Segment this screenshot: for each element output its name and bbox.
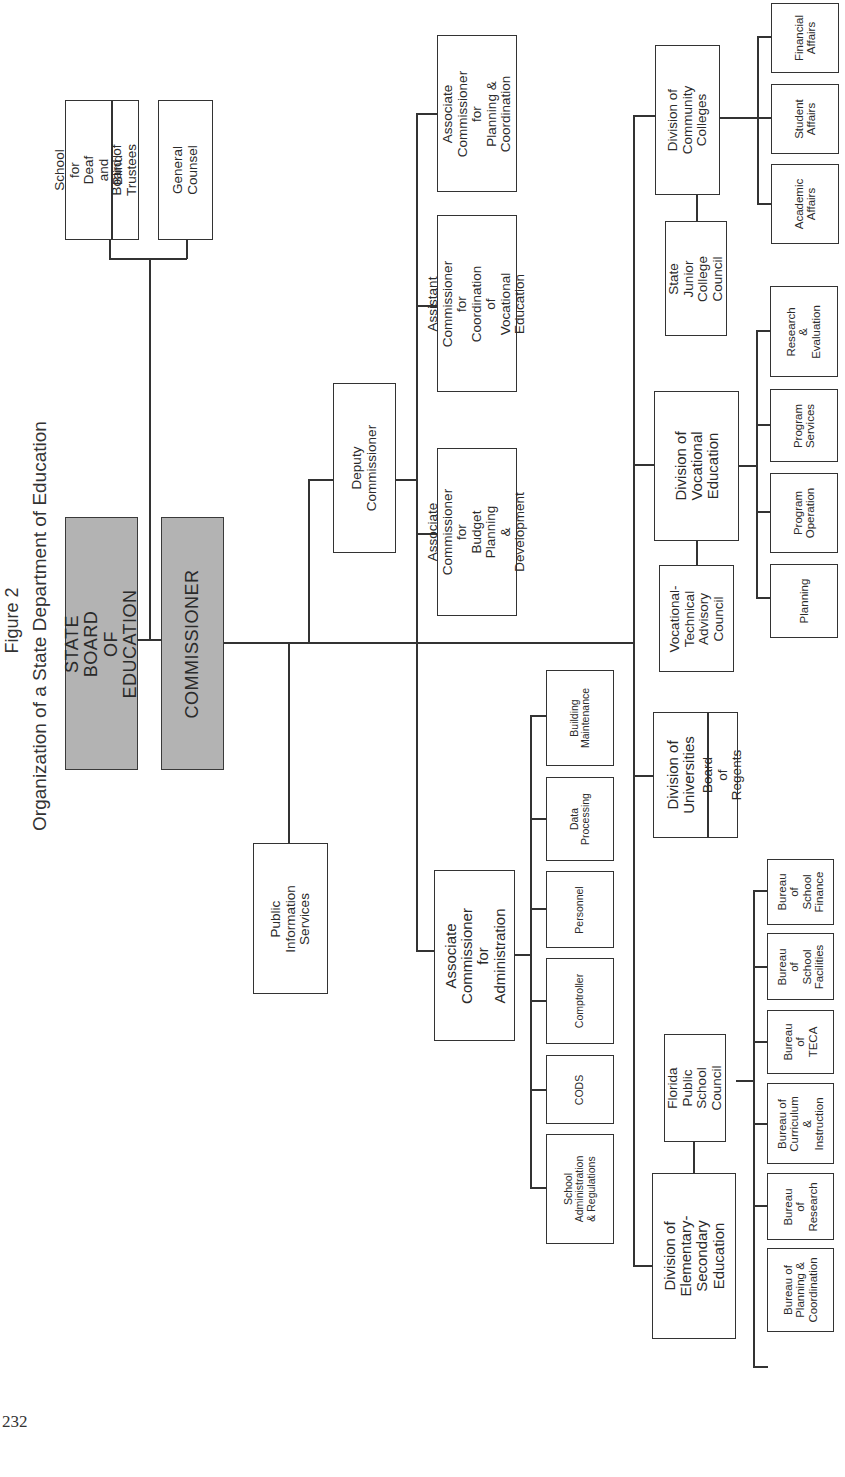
connector xyxy=(753,890,768,892)
voc-unit-label: Planning xyxy=(798,579,810,624)
admin-unit-box: Comptroller xyxy=(546,958,614,1044)
state-board-label: STATE BOARD OF EDUCATION xyxy=(63,589,141,698)
administration-label: Associate Commissioner for Administratio… xyxy=(442,908,507,1004)
figure-title: Organization of a State Department of Ed… xyxy=(29,406,51,846)
public-information-box: Public Information Services xyxy=(253,843,328,994)
state-board-box: STATE BOARD OF EDUCATION xyxy=(65,517,138,770)
connector xyxy=(416,113,418,951)
connector xyxy=(633,1265,653,1267)
bureau-label: Bureau of School Finance xyxy=(776,872,826,913)
cc-unit-label: Academic Affairs xyxy=(793,179,818,230)
admin-unit-label: School Administration & Regulations xyxy=(563,1156,597,1223)
connector xyxy=(633,115,635,1266)
admin-unit-label: Data Processing xyxy=(569,793,592,845)
connector xyxy=(736,1080,754,1082)
connector xyxy=(756,511,771,513)
vocational-division-label: Division of Vocational Education xyxy=(672,431,721,500)
voc-unit-box: Program Services xyxy=(770,389,838,462)
connector xyxy=(530,715,546,717)
cc-unit-box: Academic Affairs xyxy=(771,164,839,244)
connector xyxy=(224,642,634,644)
vocational-division-box: Division of Vocational Education xyxy=(654,391,739,541)
connector xyxy=(753,1205,768,1207)
admin-unit-label: Comptroller xyxy=(574,974,585,1028)
connector xyxy=(753,1041,768,1043)
budget-planning-label: Associate Commissioner for Budget Planni… xyxy=(426,489,528,575)
bureau-label: Bureau of Research xyxy=(782,1182,819,1231)
connector xyxy=(514,954,531,956)
connector xyxy=(530,1000,546,1002)
figure-label: Figure 2 xyxy=(2,581,23,661)
elementary-secondary-label: Division of Elementary- Secondary Educat… xyxy=(662,1216,727,1297)
deputy-commissioner-label: Deputy Commissioner xyxy=(350,425,379,511)
connector xyxy=(186,240,188,259)
universities-label: Division of Universities xyxy=(664,736,696,814)
connector xyxy=(696,194,698,222)
connector xyxy=(757,203,772,205)
deputy-commissioner-box: Deputy Commissioner xyxy=(333,383,396,553)
voc-unit-label: Program Services xyxy=(792,403,817,447)
vocational-coordination-box: Assistant Commissioner for Coordination … xyxy=(437,215,517,392)
board-of-trustees-label: Board of Trustees xyxy=(110,144,139,196)
junior-college-council-box: State Junior College Council xyxy=(665,221,727,336)
voc-unit-label: Research & Evaluation xyxy=(785,305,822,359)
connector xyxy=(739,465,757,467)
voc-unit-box: Research & Evaluation xyxy=(770,286,838,377)
connector xyxy=(756,330,771,332)
bureau-box: Bureau of School Facilities xyxy=(767,933,834,1000)
connector xyxy=(530,818,546,820)
admin-unit-box: School Administration & Regulations xyxy=(546,1134,614,1244)
admin-unit-label: CODS xyxy=(574,1074,585,1104)
bureau-label: Bureau of School Facilities xyxy=(776,944,826,989)
connector xyxy=(693,1141,695,1174)
general-counsel-label: General Counsel xyxy=(171,145,200,195)
bureau-box: Bureau of School Finance xyxy=(767,859,834,925)
connector xyxy=(757,36,759,204)
admin-unit-label: Building Maintenance xyxy=(569,688,592,748)
connector xyxy=(756,424,771,426)
admin-unit-box: Data Processing xyxy=(546,777,614,861)
cc-unit-box: Financial Affairs xyxy=(771,3,839,73)
connector xyxy=(720,117,738,119)
connector xyxy=(753,1123,768,1125)
connector xyxy=(753,1366,768,1368)
voc-tech-council-label: Vocational- Technical Advisory Council xyxy=(667,585,725,652)
connector xyxy=(416,950,434,952)
community-colleges-label: Division of Community Colleges xyxy=(666,86,710,154)
bureau-box: Bureau of Curriculum & Instruction xyxy=(767,1083,834,1164)
connector xyxy=(308,479,310,643)
admin-unit-box: Personnel xyxy=(546,871,614,948)
admin-unit-box: CODS xyxy=(546,1055,614,1124)
admin-unit-box: Building Maintenance xyxy=(546,670,614,766)
connector xyxy=(753,890,755,1366)
connector xyxy=(633,115,656,117)
connector xyxy=(109,240,111,259)
connector xyxy=(530,1089,546,1091)
commissioner-label: COMMISSIONER xyxy=(183,569,202,718)
connector xyxy=(633,775,654,777)
connector xyxy=(530,908,546,910)
bureau-label: Bureau of Planning & Coordination xyxy=(782,1257,819,1322)
board-of-regents-label: Board of Regents xyxy=(701,750,745,800)
bureau-label: Bureau of TECA xyxy=(782,1023,819,1060)
elementary-secondary-box: Division of Elementary- Secondary Educat… xyxy=(652,1173,736,1339)
connector xyxy=(149,258,151,640)
public-school-council-box: Florida Public School Council xyxy=(664,1034,726,1142)
connector xyxy=(288,642,290,843)
bureau-box: Bureau of Research xyxy=(767,1173,834,1240)
connector xyxy=(109,258,187,260)
connector xyxy=(756,597,771,599)
connector xyxy=(395,479,417,481)
cc-unit-label: Student Affairs xyxy=(793,99,818,139)
budget-planning-box: Associate Commissioner for Budget Planni… xyxy=(437,448,517,616)
administration-box: Associate Commissioner for Administratio… xyxy=(434,870,515,1041)
vocational-coordination-label: Assistant Commissioner for Coordination … xyxy=(426,260,528,346)
junior-college-council-label: State Junior College Council xyxy=(667,256,725,302)
planning-coordination-box: Associate Commissioner for Planning & Co… xyxy=(437,35,517,192)
page-number: 232 xyxy=(2,1412,28,1432)
public-information-label: Public Information Services xyxy=(269,885,313,953)
voc-tech-council-box: Vocational- Technical Advisory Council xyxy=(659,565,734,672)
connector xyxy=(757,117,772,119)
general-counsel-box: General Counsel xyxy=(158,100,213,240)
cc-unit-box: Student Affairs xyxy=(771,84,839,154)
